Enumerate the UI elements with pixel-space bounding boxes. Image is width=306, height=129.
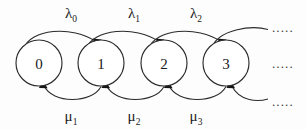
rate-label-lambda-1: λ1 xyxy=(128,5,140,24)
backward-arc-1-0 xyxy=(44,86,101,100)
state-label-2: 2 xyxy=(160,56,168,72)
markov-chain-diagram: 0 1 2 3 λ0 λ1 λ2 μ1 μ2 xyxy=(0,0,306,129)
lambda-subscript-1: 1 xyxy=(135,14,140,24)
bottom-ellipsis-icon: ..... xyxy=(272,94,294,109)
state-node-2[interactable]: 2 xyxy=(141,40,187,86)
rate-label-lambda-2: λ2 xyxy=(190,5,202,24)
lambda-subscript-0: 0 xyxy=(72,14,77,24)
backward-arc-3-2 xyxy=(169,86,226,100)
state-label-3: 3 xyxy=(222,56,230,72)
mu-symbol-3: μ xyxy=(190,108,198,124)
rate-label-mu-1: μ1 xyxy=(65,108,78,127)
top-ellipsis-icon: ..... xyxy=(272,20,294,35)
rate-label-mu-2: μ2 xyxy=(128,108,141,127)
state-label-0: 0 xyxy=(35,56,43,72)
backward-arc-2-1 xyxy=(107,86,165,100)
rate-label-mu-3: μ3 xyxy=(190,108,203,127)
mu-subscript-2: 2 xyxy=(136,117,141,127)
state-label-1: 1 xyxy=(97,56,105,72)
chain-canvas: 0 1 2 3 λ0 λ1 λ2 μ1 μ2 xyxy=(0,0,306,129)
state-node-0[interactable]: 0 xyxy=(16,40,62,86)
middle-ellipsis-icon: ..... xyxy=(272,56,294,71)
rate-label-lambda-0: λ0 xyxy=(65,5,77,24)
state-node-1[interactable]: 1 xyxy=(78,40,124,86)
lambda-subscript-2: 2 xyxy=(197,14,202,24)
mu-subscript-3: 3 xyxy=(198,117,203,127)
mu-symbol-2: μ xyxy=(128,108,136,124)
state-node-3[interactable]: 3 xyxy=(203,40,249,86)
backward-arc-beyond-3 xyxy=(232,86,269,101)
mu-symbol-1: μ xyxy=(65,108,73,124)
mu-subscript-1: 1 xyxy=(73,117,78,127)
